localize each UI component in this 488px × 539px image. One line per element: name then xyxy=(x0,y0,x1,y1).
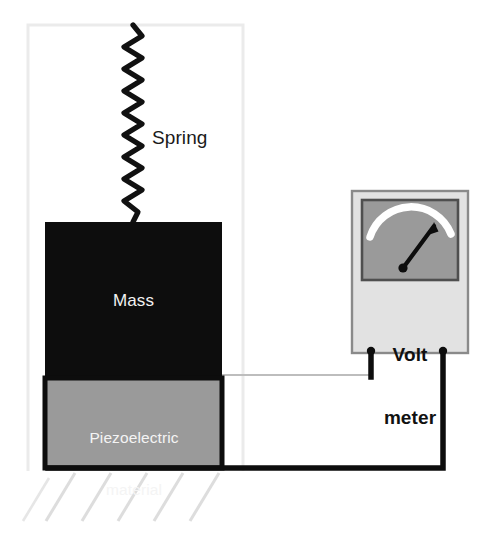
piezo-label-line1: Piezoelectric xyxy=(49,429,219,446)
meter-display xyxy=(362,200,458,280)
volt-meter-label-line2: meter xyxy=(356,407,464,428)
piezo-label: Piezoelectric material xyxy=(49,394,219,533)
meter-needle-pivot xyxy=(398,263,407,272)
mass-label: Mass xyxy=(45,291,222,310)
spring-coil xyxy=(124,25,142,222)
volt-meter-label: Volt meter xyxy=(356,301,464,471)
spring-label: Spring xyxy=(152,127,208,148)
volt-meter-label-line1: Volt xyxy=(356,344,464,365)
diagram-canvas: Spring Mass Piezoelectric material Volt … xyxy=(0,0,488,539)
piezo-label-line2: material xyxy=(49,481,219,498)
